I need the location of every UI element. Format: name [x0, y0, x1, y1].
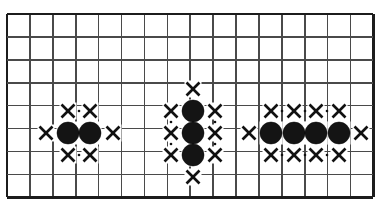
go-board-svg — [0, 0, 381, 209]
liberty-separator-dot — [78, 110, 81, 113]
liberty-separator-dot — [214, 143, 217, 146]
black-stone — [260, 122, 282, 144]
liberty-separator-dot — [304, 154, 307, 157]
black-stone — [283, 122, 305, 144]
liberty-separator-dot — [78, 154, 81, 157]
liberty-separator-dot — [326, 154, 329, 157]
liberty-separator-dot — [281, 110, 284, 113]
stones-layer — [57, 100, 350, 166]
liberty-separator-dot — [326, 110, 329, 113]
black-stone — [305, 122, 327, 144]
black-stone — [182, 100, 204, 122]
liberty-separator-dot — [170, 143, 173, 146]
black-stone — [57, 122, 79, 144]
black-stone — [182, 144, 204, 166]
go-board-figure — [0, 0, 381, 209]
liberty-separator-dot — [170, 121, 173, 124]
liberty-separator-dot — [281, 154, 284, 157]
liberty-separator-dot — [304, 110, 307, 113]
liberty-separator-dot — [214, 121, 217, 124]
black-stone — [182, 122, 204, 144]
black-stone — [328, 122, 350, 144]
black-stone — [79, 122, 101, 144]
